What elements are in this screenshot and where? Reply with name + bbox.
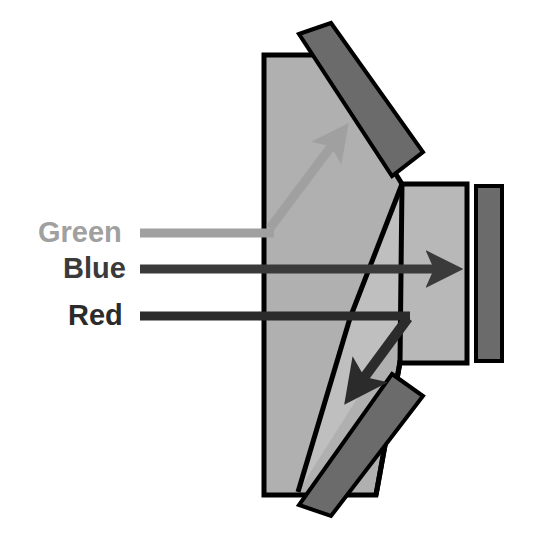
diagram-canvas: Green Blue Red [0,0,533,539]
label-red: Red [68,299,123,331]
label-green: Green [38,216,122,248]
label-blue: Blue [63,252,126,284]
right-detector [476,186,502,361]
optical-prism-diagram: Green Blue Red [0,0,533,539]
